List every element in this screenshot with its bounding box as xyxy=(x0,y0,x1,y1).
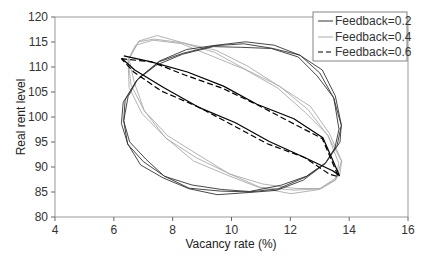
legend: Feedback=0.2 Feedback=0.4 Feedback=0.6 xyxy=(313,12,412,61)
x-tick-label: 4 xyxy=(52,223,59,237)
legend-label-0.2: Feedback=0.2 xyxy=(335,14,412,28)
y-axis-title: Real rent level xyxy=(14,79,28,156)
y-tick-label: 90 xyxy=(35,160,49,174)
legend-label-0.6: Feedback=0.6 xyxy=(335,45,412,59)
y-tick-label: 110 xyxy=(29,60,48,74)
y-tick-label: 120 xyxy=(28,10,48,24)
y-tick-label: 95 xyxy=(35,135,49,149)
x-tick-label: 10 xyxy=(225,223,239,237)
legend-label-0.4: Feedback=0.4 xyxy=(335,30,412,44)
y-axis: 80859095100105110115120 xyxy=(28,10,55,224)
x-tick-label: 6 xyxy=(110,223,117,237)
x-tick-label: 12 xyxy=(284,223,298,237)
y-tick-label: 80 xyxy=(35,210,49,224)
chart: 80859095100105110115120 46810121416 Vaca… xyxy=(0,0,430,266)
y-tick-label: 85 xyxy=(35,185,49,199)
x-tick-label: 16 xyxy=(401,223,415,237)
x-axis-title: Vacancy rate (%) xyxy=(185,237,276,251)
x-tick-label: 14 xyxy=(342,223,356,237)
y-tick-label: 115 xyxy=(29,35,48,49)
y-tick-label: 100 xyxy=(28,110,48,124)
x-axis: 46810121416 xyxy=(52,217,415,237)
y-tick-label: 105 xyxy=(28,85,48,99)
x-tick-label: 8 xyxy=(169,223,176,237)
